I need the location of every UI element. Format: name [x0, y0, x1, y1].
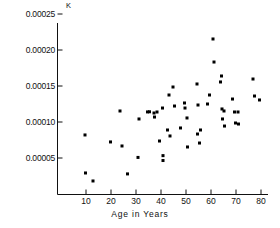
data-point	[220, 74, 223, 77]
data-point	[198, 142, 201, 145]
plot-canvas	[0, 0, 280, 228]
x-axis-title: Age in Years	[0, 209, 280, 219]
data-point	[148, 110, 151, 113]
x-tick-label: 80	[256, 196, 265, 206]
data-point-markers	[84, 37, 262, 182]
data-point	[169, 134, 172, 137]
data-point	[119, 109, 122, 112]
data-point	[186, 116, 189, 119]
y-tick-label: 0.00025	[1, 9, 55, 19]
data-point	[184, 107, 187, 110]
data-point	[221, 117, 224, 120]
data-point	[153, 116, 156, 119]
data-point	[208, 94, 211, 97]
x-tick-label: 10	[81, 196, 90, 206]
scatter-plot-figure: K 0.000050.000100.000150.000200.00025 10…	[0, 0, 280, 228]
data-point	[153, 112, 156, 115]
data-point	[196, 133, 199, 136]
data-point	[252, 78, 255, 81]
data-point	[179, 126, 182, 129]
data-point	[253, 95, 256, 98]
data-point	[199, 128, 202, 131]
data-point	[212, 37, 215, 40]
data-point	[161, 107, 164, 110]
x-tick-label: 30	[131, 196, 140, 206]
data-point	[219, 80, 222, 83]
data-point	[138, 117, 141, 120]
data-point	[237, 123, 240, 126]
data-point	[92, 179, 95, 182]
y-tick-label: 0.00020	[1, 45, 55, 55]
data-point	[223, 125, 226, 128]
data-point	[126, 172, 129, 175]
x-tick-label: 50	[181, 196, 190, 206]
data-point	[121, 144, 124, 147]
data-point	[84, 171, 87, 174]
data-point	[196, 82, 199, 85]
data-point	[162, 154, 165, 157]
data-point	[166, 128, 169, 131]
data-point	[206, 103, 209, 106]
data-point	[233, 110, 236, 113]
data-point	[183, 101, 186, 104]
data-point	[84, 133, 87, 136]
x-tick-label: 20	[106, 196, 115, 206]
y-axis-ticks	[58, 14, 63, 158]
data-point	[234, 122, 237, 125]
y-tick-label: 0.00005	[1, 153, 55, 163]
data-point	[162, 159, 165, 162]
data-point	[231, 98, 234, 101]
x-tick-label: 70	[231, 196, 240, 206]
data-point	[237, 110, 240, 113]
data-point	[172, 86, 175, 89]
data-point	[156, 110, 159, 113]
data-point	[213, 61, 216, 64]
data-point	[173, 105, 176, 108]
data-point	[223, 109, 226, 112]
x-axis-ticks	[86, 190, 261, 195]
data-point	[168, 94, 171, 97]
x-tick-label: 40	[156, 196, 165, 206]
data-point	[186, 145, 189, 148]
data-point	[197, 104, 200, 107]
data-point	[258, 98, 261, 101]
y-tick-label: 0.00015	[1, 81, 55, 91]
data-point	[109, 140, 112, 143]
x-tick-label: 60	[206, 196, 215, 206]
data-point	[137, 156, 140, 159]
y-tick-label: 0.00010	[1, 117, 55, 127]
data-point	[158, 140, 161, 143]
